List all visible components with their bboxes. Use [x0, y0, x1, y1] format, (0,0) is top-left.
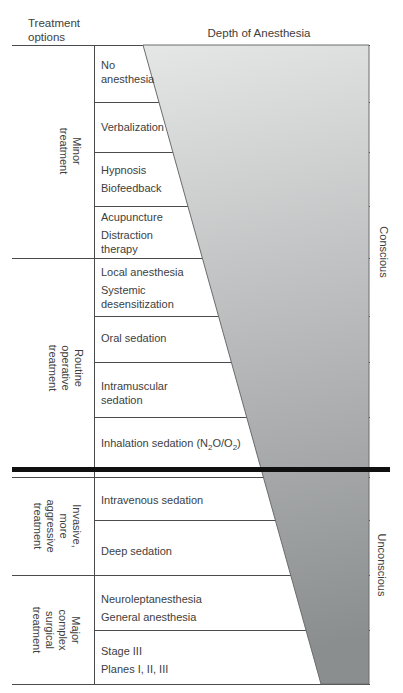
depth-axis-title: Depth of Anesthesia [159, 27, 359, 39]
section-label-major-complex-surgical-treatment: Major complex surgical treatment [30, 607, 82, 653]
unconscious-label: Unconscious [375, 534, 388, 597]
row-label: Biofeedback [101, 181, 316, 195]
row-label: No anesthesia [101, 58, 159, 86]
row-acupuncture-distraction: Acupuncture Distraction therapy [101, 210, 316, 256]
wedge-shape [143, 45, 369, 684]
row-label: Intramuscular sedation [101, 379, 316, 407]
inhalation-text: Inhalation sedation (N [101, 437, 208, 449]
row-label: Oral sedation [101, 331, 316, 345]
row-intravenous-sedation: Intravenous sedation [101, 493, 316, 507]
row-label: Deep sedation [101, 544, 316, 558]
treatment-options-title: Treatment options [28, 16, 80, 44]
inhalation-text: O/O [212, 437, 232, 449]
row-label: Verbalization [101, 120, 316, 134]
row-neuroleptanesthesia-general-anesthesia: Neuroleptanesthesia General anesthesia [101, 592, 316, 624]
row-local-anesthesia-systemic-desensitization: Local anesthesia Systemic desensitizatio… [101, 265, 316, 311]
row-label: Neuroleptanesthesia [101, 592, 316, 606]
row-no-anesthesia: No anesthesia [101, 58, 159, 86]
anesthesia-depth-diagram: Treatment options Depth of Anesthesia Mi… [0, 0, 403, 693]
row-deep-sedation: Deep sedation [101, 544, 316, 558]
row-verbalization: Verbalization [101, 120, 316, 134]
conscious-label: Conscious [377, 226, 390, 277]
row-label: Stage III [101, 644, 316, 658]
row-label: Local anesthesia [101, 265, 316, 279]
section-label-minor-treatment: Minor treatment [57, 128, 83, 174]
row-label: Planes I, II, III [101, 662, 316, 676]
section-label-invasive-aggressive-treatment: Invasive, more aggressive treatment [31, 499, 83, 552]
row-label: General anesthesia [101, 610, 316, 624]
row-oral-sedation: Oral sedation [101, 331, 316, 345]
row-label: Distraction therapy [101, 228, 316, 256]
row-label: Intravenous sedation [101, 493, 316, 507]
row-intramuscular-sedation: Intramuscular sedation [101, 379, 316, 407]
row-stage-iii-planes: Stage III Planes I, II, III [101, 644, 316, 676]
row-label: Inhalation sedation (N2O/O2) [101, 436, 316, 450]
row-inhalation-sedation: Inhalation sedation (N2O/O2) [101, 436, 316, 450]
row-hypnosis-biofeedback: Hypnosis Biofeedback [101, 163, 316, 195]
section-label-routine-operative-treatment: Routine operative treatment [46, 345, 85, 391]
row-label: Acupuncture [101, 210, 316, 224]
row-label: Hypnosis [101, 163, 316, 177]
row-label: Systemic desensitization [101, 283, 316, 311]
consciousness-threshold-line [12, 467, 390, 472]
inhalation-text: ) [237, 437, 241, 449]
